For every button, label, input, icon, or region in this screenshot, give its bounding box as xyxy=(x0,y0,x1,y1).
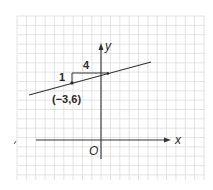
y-axis: y xyxy=(99,39,113,159)
coordinate-graph: x y O 1 4 (−3,6) xyxy=(0,0,213,190)
x-axis-arrow-icon xyxy=(164,138,171,143)
stray-mark xyxy=(14,141,16,144)
x-axis: x xyxy=(36,133,182,147)
origin-label: O xyxy=(89,144,98,158)
grid xyxy=(17,16,205,180)
x-axis-label: x xyxy=(174,133,182,147)
graph-line xyxy=(29,62,151,95)
rise-label: 1 xyxy=(59,71,65,83)
run-label: 4 xyxy=(83,59,90,71)
point-marker xyxy=(70,81,73,84)
y-axis-label: y xyxy=(104,39,112,53)
point-label: (−3,6) xyxy=(52,93,81,105)
point-marker-2 xyxy=(107,72,109,74)
